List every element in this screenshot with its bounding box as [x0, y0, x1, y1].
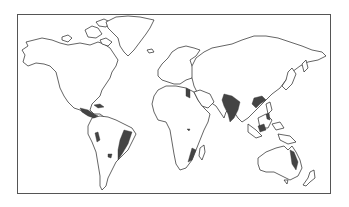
asia [192, 36, 326, 122]
world-map [0, 0, 349, 207]
iceland [147, 49, 154, 53]
south-america [88, 116, 136, 190]
new-zealand [303, 170, 315, 186]
tasmania [284, 180, 288, 184]
madagascar [199, 145, 205, 160]
philippines [266, 102, 272, 114]
highlight-cuba [94, 104, 104, 108]
indonesia [248, 114, 296, 144]
highlight-nile [186, 88, 190, 98]
arctic-islands [62, 19, 112, 46]
